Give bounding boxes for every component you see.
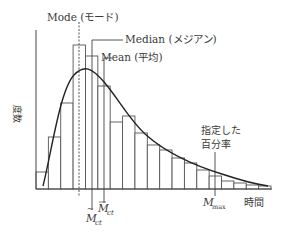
svg-text:max: max bbox=[212, 203, 226, 211]
histogram-bar bbox=[160, 150, 172, 189]
histogram-bar bbox=[110, 122, 122, 189]
histogram-bar bbox=[36, 172, 48, 189]
y-axis-label: 度数 bbox=[12, 105, 23, 123]
histogram-bar bbox=[234, 183, 246, 189]
histogram-bar bbox=[135, 133, 147, 189]
histogram-bar bbox=[61, 103, 73, 189]
histogram-bar bbox=[246, 185, 258, 189]
histogram-bars bbox=[36, 45, 271, 189]
percentile-label-line2: 百分率 bbox=[201, 138, 231, 150]
mean-label: Mean (平均) bbox=[101, 51, 163, 63]
svg-text:ct: ct bbox=[95, 219, 102, 227]
median-label: Median (メジアン) bbox=[125, 33, 217, 45]
max-marker: M max bbox=[202, 196, 226, 211]
x-axis-label: 時間 bbox=[244, 197, 264, 208]
histogram-bar bbox=[172, 158, 184, 189]
svg-text:~: ~ bbox=[87, 205, 94, 214]
mean-marker: M ct bbox=[97, 202, 114, 217]
histogram-bar bbox=[222, 181, 234, 189]
svg-text:ct: ct bbox=[107, 209, 114, 217]
histogram-bar bbox=[197, 170, 209, 189]
histogram-bar bbox=[123, 116, 135, 189]
histogram-bar bbox=[48, 137, 60, 189]
distribution-chart: Mode (モード) Median (メジアン) Mean (平均) 指定した … bbox=[0, 0, 286, 233]
histogram-bar bbox=[147, 145, 159, 189]
mode-label: Mode (モード) bbox=[47, 11, 119, 23]
histogram-bar bbox=[184, 163, 196, 189]
percentile-label-line1: 指定した bbox=[201, 124, 241, 136]
